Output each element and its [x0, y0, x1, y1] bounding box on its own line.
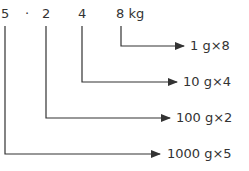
arrow-8kg — [121, 26, 184, 46]
label-10g-x4: 10 g×4 — [183, 74, 231, 89]
digit-4: 4 — [78, 6, 86, 21]
arrow-2 — [46, 26, 170, 118]
label-1g-x8: 1 g×8 — [190, 38, 230, 53]
digit-2: 2 — [42, 6, 50, 21]
decimal-point: · — [25, 6, 29, 21]
digit-8-kg: 8 kg — [116, 6, 144, 21]
label-100g-x2: 100 g×2 — [176, 110, 232, 125]
digit-5: 5 — [1, 6, 9, 21]
arrow-4 — [82, 26, 177, 82]
label-1000g-x5: 1000 g×5 — [167, 146, 232, 161]
